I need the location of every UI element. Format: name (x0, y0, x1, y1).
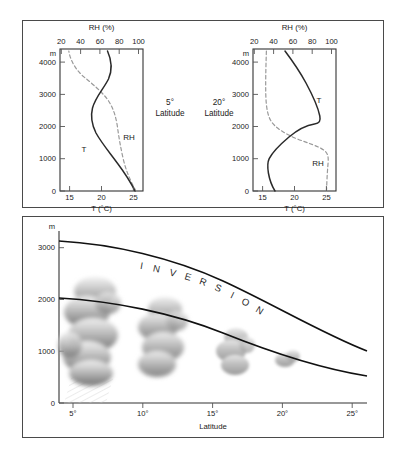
inv-alt-tick-3000: 3000 (38, 243, 55, 252)
latitude-label-20deg-deg: 20° (213, 98, 225, 107)
latitude-axis-title: Latitude (199, 422, 227, 431)
lat-tick-15: 15° (207, 409, 218, 418)
alt-tick-1000-5deg: 1000 (39, 154, 56, 163)
svg-text:O: O (240, 295, 252, 308)
t-axis-title-20deg: T (°C) (284, 204, 305, 213)
t-tick-15-20deg: 15 (258, 193, 266, 202)
chart-20deg: RH (%) 20 40 60 80 100 m 4000 (204, 23, 337, 213)
rh-tick-60-5deg: 60 (96, 37, 104, 46)
inversion-svg: m 3000 2000 1000 0 5° 10° 15° 20° 25° La… (23, 217, 381, 435)
alt-tick-4000-5deg: 4000 (39, 58, 56, 67)
svg-text:I: I (229, 289, 236, 300)
y-unit-20deg: m (243, 49, 249, 58)
inv-alt-tick-2000: 2000 (38, 295, 55, 304)
alt-tick-4000-20deg: 4000 (232, 58, 249, 67)
alt-tick-0-20deg: 0 (245, 187, 249, 196)
t-tick-20-20deg: 20 (290, 193, 298, 202)
alt-tick-2000-5deg: 2000 (39, 122, 56, 131)
svg-text:N: N (254, 304, 266, 317)
svg-text:I: I (139, 260, 144, 271)
lat-tick-10: 10° (137, 409, 148, 418)
alt-tick-2000-20deg: 2000 (232, 122, 249, 131)
lat-tick-25: 25° (346, 409, 357, 418)
rh-tick-60-20deg: 60 (289, 37, 297, 46)
t-curve-label-5deg: T (82, 145, 87, 154)
t-tick-20-5deg: 20 (97, 193, 105, 202)
rh-ticks-5deg: 20 40 60 80 100 (57, 37, 145, 54)
rh-curve-label-5deg: RH (123, 133, 135, 142)
latitude-label-20deg-word: Latitude (204, 109, 234, 118)
svg-text:S: S (213, 281, 223, 294)
chart-5deg: RH (%) 20 40 60 80 100 m (39, 23, 185, 213)
inv-alt-tick-0: 0 (51, 399, 55, 408)
rh-tick-100-20deg: 100 (325, 37, 338, 46)
rh-tick-100-5deg: 100 (132, 37, 145, 46)
t-ticks-20deg: 15 20 25 (258, 186, 330, 202)
rh-tick-80-20deg: 80 (308, 37, 316, 46)
cloud-5deg (58, 277, 121, 386)
svg-text:R: R (198, 275, 208, 288)
altitude-ticks-20deg: 4000 3000 2000 1000 0 (232, 58, 258, 196)
latitude-label-5deg-deg: 5° (166, 98, 174, 107)
rh-curve-20deg (266, 51, 329, 191)
plot-frame-5deg (60, 49, 143, 191)
y-unit-inversion: m (49, 222, 55, 231)
latitude-label-5deg-word: Latitude (155, 109, 185, 118)
svg-text:N: N (152, 262, 161, 274)
y-unit-5deg: m (50, 49, 56, 58)
t-tick-25-20deg: 25 (322, 193, 330, 202)
rh-tick-20-5deg: 20 (57, 37, 65, 46)
svg-text:E: E (183, 270, 192, 282)
cloud-15deg (216, 328, 255, 375)
t-tick-15-5deg: 15 (65, 193, 73, 202)
svg-text:V: V (168, 266, 177, 278)
rh-tick-40-5deg: 40 (76, 37, 84, 46)
inv-alt-tick-1000: 1000 (38, 347, 55, 356)
cloud-group (58, 277, 300, 386)
t-tick-25-5deg: 25 (129, 193, 137, 202)
profiles-panel: RH (%) 20 40 60 80 100 m (22, 20, 384, 208)
inversion-panel: m 3000 2000 1000 0 5° 10° 15° 20° 25° La… (22, 216, 384, 438)
lat-tick-20: 20° (277, 409, 288, 418)
rh-ticks-20deg: 20 40 60 80 100 (250, 37, 338, 54)
alt-tick-3000-20deg: 3000 (232, 90, 249, 99)
rh-tick-40-20deg: 40 (269, 37, 277, 46)
lat-tick-5: 5° (69, 409, 76, 418)
rh-axis-title-5deg: RH (%) (89, 23, 115, 32)
alt-tick-0-5deg: 0 (52, 187, 56, 196)
t-ticks-5deg: 15 20 25 (65, 186, 137, 202)
t-curve-label-20deg: T (317, 96, 322, 105)
profiles-svg: RH (%) 20 40 60 80 100 m (23, 21, 381, 205)
alt-tick-1000-20deg: 1000 (232, 154, 249, 163)
rh-curve-5deg (69, 51, 136, 191)
rh-axis-title-20deg: RH (%) (282, 23, 308, 32)
rh-tick-20-20deg: 20 (250, 37, 258, 46)
t-axis-title-5deg: T (°C) (91, 204, 112, 213)
rh-curve-label-20deg: RH (312, 159, 324, 168)
rh-tick-80-5deg: 80 (115, 37, 123, 46)
altitude-ticks-5deg: 4000 3000 2000 1000 0 (39, 58, 65, 196)
alt-tick-3000-5deg: 3000 (39, 90, 56, 99)
t-curve-20deg (268, 51, 320, 191)
t-curve-5deg (92, 51, 135, 191)
